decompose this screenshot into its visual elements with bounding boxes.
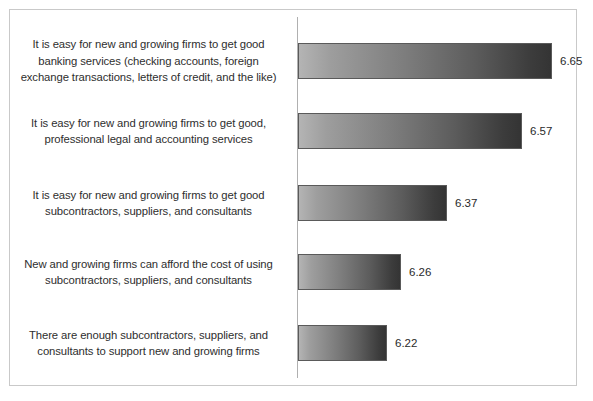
bar-3[interactable]: [298, 185, 447, 221]
bar-value-label: 6.37: [455, 185, 477, 221]
bar-category-label-line: New and growing firms can afford the cos…: [7, 256, 290, 273]
bar-category-label-line: There are enough subcontractors, supplie…: [7, 327, 290, 344]
bar-category-label: It is easy for new and growing firms to …: [7, 115, 290, 148]
bar-category-label-line: consultants to support new and growing f…: [7, 343, 290, 360]
bar-value-label: 6.26: [409, 254, 431, 290]
bar-category-label-line: It is easy for new and growing firms to …: [7, 36, 290, 53]
bar-chart: It is easy for new and growing firms to …: [0, 0, 593, 401]
bars-container: It is easy for new and growing firms to …: [0, 0, 593, 401]
bar-category-label-line: It is easy for new and growing firms to …: [7, 187, 290, 204]
bar-category-label-line: professional legal and accounting servic…: [7, 131, 290, 148]
bar-category-label: There are enough subcontractors, supplie…: [7, 327, 290, 360]
bar-5[interactable]: [298, 325, 387, 361]
bar-category-label-line: subcontractors, suppliers, and consultan…: [7, 203, 290, 220]
bar-category-label: New and growing firms can afford the cos…: [7, 256, 290, 289]
bar-category-label-line: subcontractors, suppliers, and consultan…: [7, 272, 290, 289]
bar-category-label-line: exchange transactions, letters of credit…: [7, 69, 290, 86]
bar-value-label: 6.57: [530, 113, 552, 149]
bar-category-label-line: It is easy for new and growing firms to …: [7, 115, 290, 132]
bar-1[interactable]: [298, 43, 552, 79]
bar-category-label: It is easy for new and growing firms to …: [7, 36, 290, 86]
bar-category-label: It is easy for new and growing firms to …: [7, 187, 290, 220]
bar-4[interactable]: [298, 254, 401, 290]
bar-category-label-line: banking services (checking accounts, for…: [7, 53, 290, 70]
bar-value-label: 6.65: [560, 43, 582, 79]
bar-value-label: 6.22: [395, 325, 417, 361]
bar-2[interactable]: [298, 113, 522, 149]
